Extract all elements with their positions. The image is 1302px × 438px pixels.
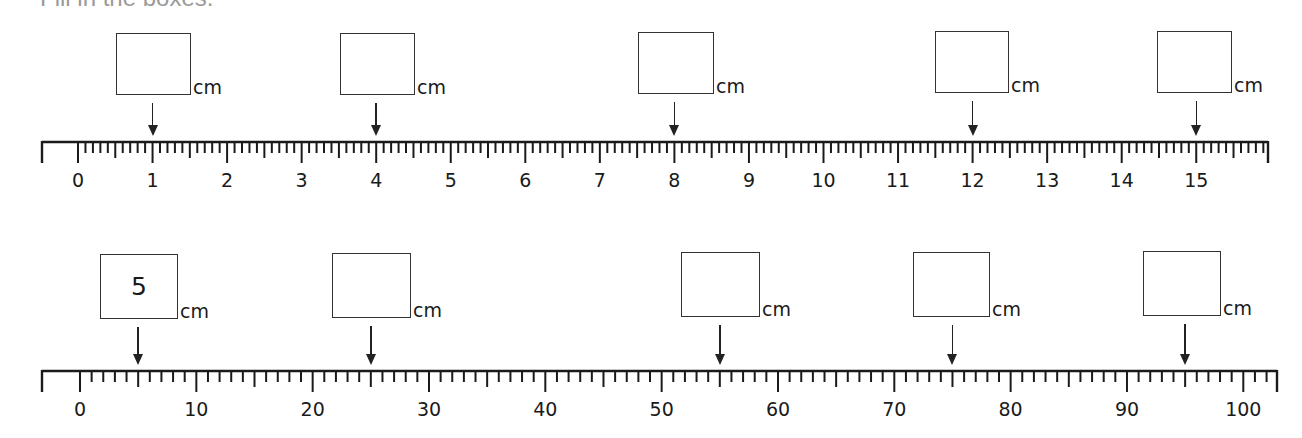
ruler-label: 20 [301,398,325,420]
unit-label: cm [1223,299,1252,318]
ruler-label: 3 [296,169,308,191]
ruler-tens: 0102030405060708090100 [0,369,1302,429]
ruler-label: 12 [961,169,985,191]
ruler-label: 10 [811,169,835,191]
answer-box[interactable] [1157,31,1232,93]
answer-box[interactable] [332,253,411,318]
unit-label: cm [1234,76,1263,95]
unit-label: cm [193,78,222,97]
ruler-label: 100 [1225,398,1261,420]
ruler-label: 40 [533,398,557,420]
ruler-label: 9 [743,169,755,191]
answer-box[interactable] [681,252,760,317]
ruler-label: 60 [766,398,790,420]
ruler-label: 10 [184,398,208,420]
ruler-label: 15 [1184,169,1208,191]
unit-label: cm [417,78,446,97]
ruler-label: 7 [594,169,606,191]
ruler-label: 30 [417,398,441,420]
unit-label: cm [762,300,791,319]
ruler-label: 11 [886,169,910,191]
ruler-label: 4 [370,169,382,191]
unit-label: cm [413,301,442,320]
ruler-label: 70 [882,398,906,420]
ruler-label: 2 [221,169,233,191]
ruler-label: 50 [650,398,674,420]
ruler-label: 1 [147,169,159,191]
ruler-label: 8 [668,169,680,191]
unit-label: cm [992,300,1021,319]
ruler-label: 6 [519,169,531,191]
unit-label: cm [716,77,745,96]
ruler-cm: 0123456789101112131415 [0,140,1302,200]
ruler-label: 0 [72,169,84,191]
unit-label: cm [180,302,209,321]
answer-box[interactable]: 5 [100,254,178,319]
ruler-label: 14 [1110,169,1134,191]
answer-box[interactable] [913,252,990,317]
unit-label: cm [1011,76,1040,95]
ruler-label: 80 [999,398,1023,420]
answer-box[interactable] [116,33,191,95]
instruction-text: Fill in the boxes. [40,0,213,12]
answer-box[interactable] [340,33,415,95]
ruler-label: 5 [445,169,457,191]
ruler-label: 13 [1035,169,1059,191]
ruler-label: 0 [74,398,86,420]
answer-box[interactable] [1143,251,1221,316]
ruler-label: 90 [1115,398,1139,420]
answer-box[interactable] [638,32,714,94]
answer-box[interactable] [935,31,1009,93]
